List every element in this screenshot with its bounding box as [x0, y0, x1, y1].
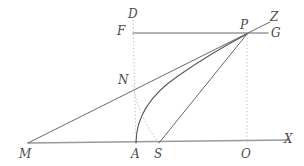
point-label-a: A — [131, 148, 140, 160]
segment-sp — [159, 34, 247, 143]
curve-a-to-p — [136, 34, 247, 143]
point-label-s: S — [154, 148, 162, 160]
vertical-dotted-da — [133, 20, 136, 143]
baseline-mx — [28, 140, 288, 143]
point-label-o: O — [241, 148, 251, 160]
point-label-z: Z — [270, 11, 278, 23]
point-label-d: D — [128, 8, 138, 20]
point-label-g: G — [271, 27, 281, 39]
point-label-p: P — [240, 19, 248, 31]
point-label-m: M — [19, 148, 31, 160]
point-label-n: N — [118, 74, 129, 86]
figure-canvas — [0, 0, 304, 166]
ray-mz — [28, 22, 270, 143]
point-label-x: X — [284, 133, 293, 145]
point-label-f: F — [117, 25, 125, 37]
geometry-figure: D F P Z G N M A S O X — [0, 0, 304, 166]
